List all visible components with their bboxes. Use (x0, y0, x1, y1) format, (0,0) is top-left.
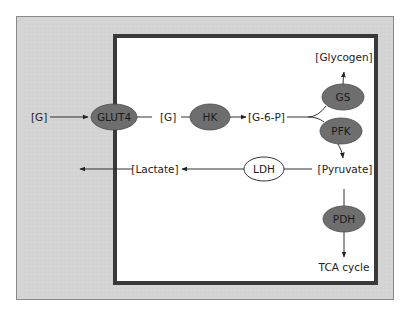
glut4-transporter: GLUT4 (91, 104, 137, 130)
svg-text:GS: GS (336, 91, 351, 103)
lactate-label: [Lactate] (131, 163, 178, 175)
hk-enzyme: HK (190, 104, 230, 130)
svg-text:PFK: PFK (331, 125, 351, 137)
svg-text:GLUT4: GLUT4 (97, 111, 132, 123)
gs-enzyme: GS (322, 84, 364, 110)
pdh-enzyme: PDH (323, 206, 365, 232)
svg-text:LDH: LDH (253, 163, 275, 175)
g6p-label: [G-6-P] (248, 111, 285, 123)
glycogen-label: [Glycogen] (315, 51, 372, 63)
extracellular-glucose-label: [G] (31, 111, 47, 123)
svg-text:HK: HK (203, 111, 219, 123)
pfk-enzyme: PFK (320, 118, 362, 144)
svg-text:PDH: PDH (333, 213, 355, 225)
intracellular-glucose-label: [G] (160, 111, 176, 123)
pyruvate-label: [Pyruvate] (318, 163, 373, 175)
tca-cycle-label: TCA cycle (318, 261, 370, 273)
ldh-enzyme: LDH (244, 157, 284, 181)
cell-region (115, 36, 376, 283)
glucose-metabolism-diagram: [G] GLUT4 [G] HK [G-6-P] GS [Glycogen] P… (0, 0, 406, 312)
